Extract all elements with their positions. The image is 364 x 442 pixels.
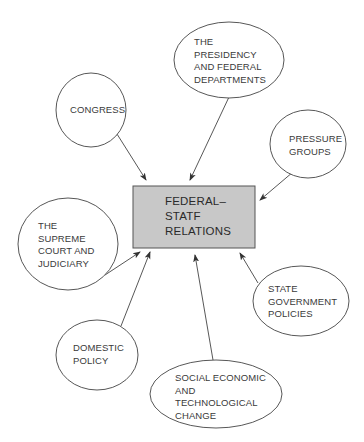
- node-label-social: SOCIAL ECONOMIC AND TECHNOLOGICAL CHANGE: [175, 372, 266, 422]
- node-label-presidency: THE PRESIDENCY AND FEDERAL DEPARTMENTS: [194, 36, 266, 86]
- node-label-congress: CONGRESS: [70, 104, 125, 117]
- edge-social: [195, 255, 213, 360]
- edge-pressure: [260, 172, 293, 200]
- edge-domestic: [121, 252, 150, 326]
- node-label-domestic: DOMESTIC POLICY: [73, 342, 124, 367]
- center-label: FEDERAL– STATF RELATIONS: [165, 194, 231, 239]
- node-label-judiciary: THE SUPREME COURT AND JUDICIARY: [38, 220, 95, 270]
- node-label-pressure: PRESSURE GROUPS: [289, 133, 342, 158]
- edge-state: [240, 253, 258, 283]
- edge-presidency: [190, 97, 229, 180]
- edge-congress: [117, 134, 146, 180]
- node-label-state: STATE GOVERNMENT POLICIES: [268, 283, 337, 321]
